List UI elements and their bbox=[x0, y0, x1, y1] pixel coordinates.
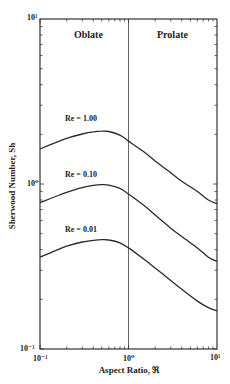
plot-frame bbox=[40, 19, 217, 349]
x-axis-label: Aspect Ratio, ℜ bbox=[99, 365, 160, 375]
y-tick-label-top: 10¹ bbox=[27, 13, 37, 22]
x-tick-label-left: 10⁻¹ bbox=[33, 353, 48, 363]
series-label-re-0-01: Re = 0.01 bbox=[65, 225, 97, 234]
x-tick-label-mid: 10⁰ bbox=[123, 353, 135, 363]
y-tick-label-bottom: 10⁻¹ bbox=[20, 343, 35, 353]
chart-plot-area bbox=[0, 0, 230, 384]
y-axis-label: Sherwood Number, Sh bbox=[7, 143, 17, 229]
oblate-region-label: Oblate bbox=[74, 29, 103, 40]
series-label-re-1-00: Re = 1.00 bbox=[65, 114, 97, 123]
y-tick-label-mid: 10⁰ bbox=[27, 178, 39, 188]
series-label-re-0-10: Re = 0.10 bbox=[65, 170, 97, 179]
x-tick-label-right: 10¹ bbox=[210, 353, 220, 362]
prolate-region-label: Prolate bbox=[157, 29, 188, 40]
